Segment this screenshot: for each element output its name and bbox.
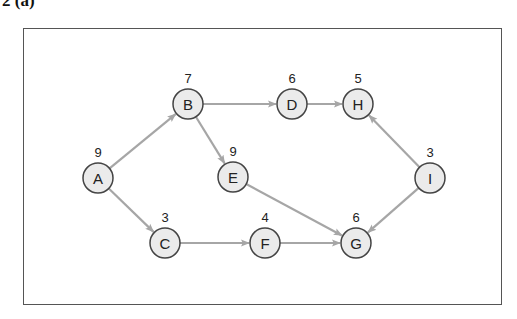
node-label: I [428,170,432,187]
node-value-label: 9 [94,145,101,160]
node-value-label: 3 [426,145,433,160]
node-value-label: 6 [352,210,359,225]
node-D: D6 [277,71,307,119]
node-value-label: 4 [261,210,268,225]
node-A: A9 [83,145,113,193]
node-I: I3 [415,145,445,193]
node-value-label: 7 [184,71,191,86]
edge-A-B [110,114,176,168]
edge-B-E [196,117,225,164]
nodes-layer: A9B7C3D6E9F4G6H5I3 [83,71,445,258]
edge-A-C [109,188,154,231]
node-label: E [228,169,238,186]
edge-I-H [369,115,419,167]
node-G: G6 [341,210,371,258]
node-E: E9 [218,144,248,192]
node-value-label: 6 [288,71,295,86]
node-label: F [260,235,269,252]
node-label: D [287,96,298,113]
node-label: H [353,96,364,113]
node-C: C3 [150,210,180,258]
node-F: F4 [250,210,280,258]
node-value-label: 3 [161,210,168,225]
node-H: H5 [343,71,373,119]
node-label: C [160,235,171,252]
node-B: B7 [173,71,203,119]
node-label: G [350,235,362,252]
edge-I-G [368,188,419,233]
node-label: A [93,170,103,187]
node-value-label: 5 [354,71,361,86]
activity-network-diagram: A9B7C3D6E9F4G6H5I3 [0,0,517,319]
node-label: B [183,96,193,113]
node-value-label: 9 [229,144,236,159]
